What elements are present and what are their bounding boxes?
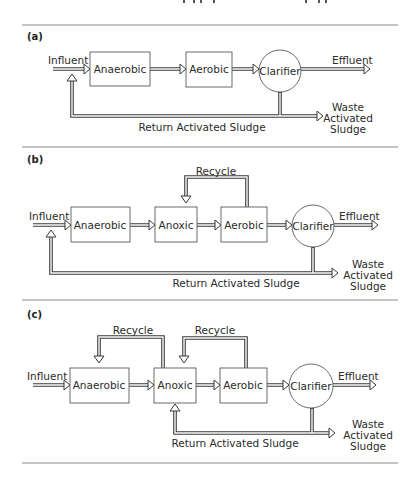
arrow-head-icon: [332, 268, 338, 278]
influent-label: Influent: [29, 210, 69, 222]
influent-label: Influent: [48, 54, 88, 66]
panel-b: (b) Anaerobic Anoxic Aerobic Clarifier R…: [27, 154, 393, 292]
panel-label: (b): [27, 154, 43, 165]
recycle-label: Recycle: [196, 165, 236, 177]
unit-label: Aerobic: [223, 379, 263, 391]
unit-label: Anaerobic: [73, 379, 126, 391]
arrow-head-icon: [46, 230, 56, 237]
arrow-head-icon: [170, 404, 180, 411]
waste-label-line: Sludge: [350, 440, 386, 452]
recycle-label: Recycle: [113, 324, 153, 336]
unit-label: Anoxic: [158, 379, 193, 391]
arrow-head-icon: [283, 380, 289, 390]
arrow-head-icon: [181, 196, 191, 203]
arrow-head-icon: [149, 220, 155, 230]
panel-label: (c): [27, 309, 42, 320]
unit-label: Aerobic: [189, 63, 229, 75]
arrow-head-icon: [148, 380, 154, 390]
effluent-label: Effluent: [338, 370, 379, 382]
return-sludge-label: Return Activated Sludge: [172, 277, 299, 289]
arrow-head-icon: [286, 220, 292, 230]
clarifier-label: Clarifier: [259, 65, 301, 77]
process-flow-diagram: (a) Anaerobic Aerobic Clarifier Influent…: [0, 0, 416, 477]
cropped-text-remnant: [183, 0, 327, 3]
clarifier-label: Clarifier: [292, 220, 334, 232]
arrow-head-icon: [94, 356, 104, 363]
waste-label-line: Sludge: [330, 123, 366, 135]
arrow-head-icon: [317, 111, 323, 121]
arrow-head-icon: [329, 428, 335, 438]
panel-label: (a): [27, 31, 43, 42]
clarifier-label: Clarifier: [290, 380, 332, 392]
return-sludge-label: Return Activated Sludge: [138, 121, 265, 133]
unit-label: Anoxic: [159, 219, 194, 231]
effluent-label: Effluent: [339, 210, 380, 222]
waste-label-line: Sludge: [350, 280, 386, 292]
arrow-head-icon: [180, 64, 186, 74]
effluent-label: Effluent: [332, 54, 373, 66]
panel-a: (a) Anaerobic Aerobic Clarifier Influent…: [27, 31, 373, 135]
recycle-label: Recycle: [195, 324, 235, 336]
arrow-head-icon: [215, 220, 221, 230]
arrow-head-icon: [214, 380, 220, 390]
influent-label: Influent: [27, 370, 67, 382]
arrow-head-icon: [179, 356, 189, 363]
return-sludge-label: Return Activated Sludge: [171, 437, 298, 449]
unit-label: Anaerobic: [94, 63, 147, 75]
arrow-head-icon: [67, 74, 77, 81]
panel-c: (c) Anaerobic Anoxic Aerobic Clarifier R…: [27, 309, 393, 452]
unit-label: Aerobic: [224, 219, 264, 231]
arrow-head-icon: [253, 64, 259, 74]
unit-label: Anaerobic: [74, 219, 127, 231]
